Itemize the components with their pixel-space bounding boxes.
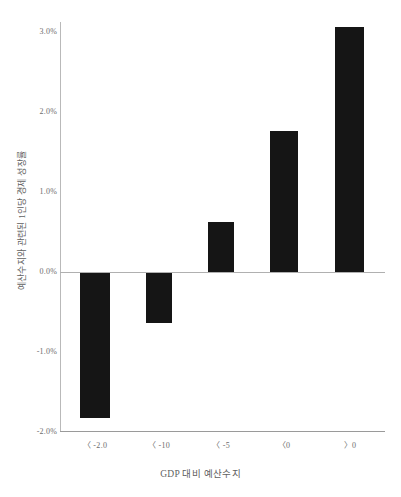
x-axis-line (60, 431, 385, 432)
y-tick-label-neg2: -2.0% (23, 427, 57, 436)
bar-category-2 (146, 273, 172, 323)
bar-category-3 (208, 222, 234, 272)
x-tick-label-3-text: 〈 -5 (212, 441, 230, 450)
x-tick-label-5: 〉0 (315, 441, 385, 451)
x-tick-label-3: 〈 -5 (186, 441, 256, 451)
y-tick-label-2: 2.0% (23, 107, 57, 116)
y-tick-label-neg1-text: -1.0% (37, 347, 57, 356)
x-axis-title: GDP 대비 예산수지 (0, 466, 401, 480)
y-tick-label-1: 1.0% (23, 187, 57, 196)
bar-category-1 (80, 273, 110, 418)
x-tick-label-1-text: 〈 -2.0 (83, 441, 107, 450)
y-tick-label-1-text: 1.0% (40, 187, 57, 196)
bar-category-4 (270, 131, 298, 272)
y-tick-label-neg1: -1.0% (23, 347, 57, 356)
y-tick-label-3: 3.0% (23, 27, 57, 36)
bar-category-5 (335, 27, 364, 272)
x-axis-title-label: GDP 대비 예산수지 (160, 469, 241, 479)
y-tick-label-neg2-text: -2.0% (37, 427, 57, 436)
y-axis-line (60, 22, 61, 432)
bar-chart: 예산수지와 관련된 1인당 경제 성장률 3.0% 2.0% 1.0% 0.0%… (0, 0, 401, 497)
x-tick-label-2: 〈 -10 (124, 441, 194, 451)
y-tick-label-2-text: 2.0% (40, 107, 57, 116)
x-tick-label-4: 〈0 (249, 441, 319, 451)
x-tick-label-5-text: 〉0 (344, 441, 357, 450)
x-tick-label-1: 〈 -2.0 (60, 441, 130, 451)
y-tick-label-3-text: 3.0% (40, 27, 57, 36)
y-tick-label-0-text: 0.0% (40, 267, 57, 276)
y-axis-title: 예산수지와 관련된 1인당 경제 성장률 (12, 0, 32, 440)
x-tick-label-2-text: 〈 -10 (148, 441, 170, 450)
plot-area (60, 22, 385, 432)
y-tick-label-0: 0.0% (23, 267, 57, 276)
x-tick-label-4-text: 〈0 (278, 441, 291, 450)
